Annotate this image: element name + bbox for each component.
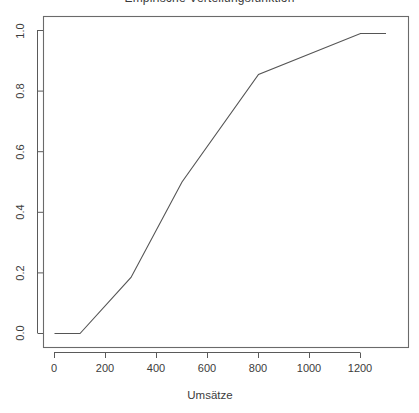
chart-canvas [0,0,419,413]
y-tick-label-4: 0.8 [14,83,26,98]
plot-frame [44,17,409,348]
x-tick-label-0: 0 [51,362,57,374]
data-series-line [55,34,387,334]
x-tick-label-1000: 1000 [297,362,321,374]
y-axis [38,30,44,334]
y-tick-label-5: 1.0 [14,23,26,38]
x-tick-label-1200: 1200 [348,362,372,374]
chart-container: Empirische Verteilungsfunktion [0,0,419,413]
x-tick-label-400: 400 [147,362,165,374]
y-tick-label-0: 0.0 [14,325,26,340]
x-axis [54,353,361,359]
x-tick-label-600: 600 [198,362,216,374]
x-tick-label-800: 800 [249,362,267,374]
y-tick-label-2: 0.4 [14,204,26,219]
y-tick-label-3: 0.6 [14,144,26,159]
x-axis-title: Umsätze [187,389,232,401]
x-tick-label-200: 200 [96,362,114,374]
y-tick-label-1: 0.2 [14,265,26,280]
